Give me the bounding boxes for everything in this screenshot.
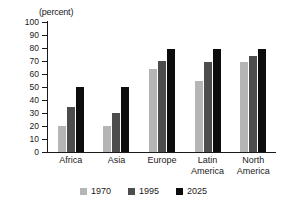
y-axis-tick-label-wrap: 20	[8, 126, 39, 127]
plot-area	[48, 22, 276, 152]
bar	[149, 69, 157, 152]
y-axis-tick-label: 70	[8, 57, 39, 66]
y-axis-unit-label: (percent)	[39, 7, 73, 17]
y-axis-tick-label-wrap: 10	[8, 139, 39, 140]
legend-swatch-icon	[128, 188, 135, 195]
y-axis-tick-label-wrap: 70	[8, 61, 39, 62]
y-axis-tick-label: 40	[8, 96, 39, 105]
bar	[58, 126, 66, 152]
y-axis-tick-label-wrap: 0	[8, 152, 39, 153]
legend-item: 2025	[176, 187, 207, 196]
y-axis-tick-label-wrap: 50	[8, 87, 39, 88]
y-axis-tick	[42, 113, 47, 114]
y-axis-tick	[42, 74, 47, 75]
bar-group	[240, 22, 266, 152]
y-axis-tick-label: 20	[8, 122, 39, 131]
y-axis-tick	[42, 126, 47, 127]
bar	[195, 81, 203, 153]
legend-swatch-icon	[80, 188, 87, 195]
bar	[258, 49, 266, 152]
y-axis-tick	[42, 35, 47, 36]
bar	[67, 107, 75, 153]
chart-legend: 197019952025	[0, 187, 287, 196]
bar-chart: (percent) 1009080706050403020100 AfricaA…	[0, 0, 287, 209]
y-axis-tick-label-wrap: 40	[8, 100, 39, 101]
y-axis-tick	[42, 48, 47, 49]
bar-group	[58, 22, 84, 152]
y-axis-tick-label: 100	[8, 18, 39, 27]
y-axis-tick	[42, 100, 47, 101]
y-axis-tick-label-wrap: 30	[8, 113, 39, 114]
bar	[121, 87, 129, 152]
bar	[249, 56, 257, 152]
legend-swatch-icon	[176, 188, 183, 195]
legend-label: 1995	[139, 187, 159, 196]
y-axis-tick-label-wrap: 100	[8, 22, 39, 23]
bar	[204, 62, 212, 152]
bar	[213, 49, 221, 152]
y-axis-tick-label: 60	[8, 70, 39, 79]
y-axis-tick-label-wrap: 90	[8, 35, 39, 36]
bar-group	[195, 22, 221, 152]
y-axis-tick	[42, 152, 47, 153]
category-label-line1: North	[223, 155, 283, 166]
x-axis-category-label: NorthAmerica	[223, 155, 283, 176]
category-label-line2: America	[223, 166, 283, 177]
legend-label: 2025	[187, 187, 207, 196]
y-axis-tick	[42, 61, 47, 62]
bar-group	[103, 22, 129, 152]
legend-item: 1970	[80, 187, 111, 196]
y-axis-tick	[42, 139, 47, 140]
legend-item: 1995	[128, 187, 159, 196]
y-axis-tick-label: 50	[8, 83, 39, 92]
bar	[112, 113, 120, 152]
y-axis-tick-label: 90	[8, 31, 39, 40]
bar	[103, 126, 111, 152]
bar	[167, 49, 175, 152]
y-axis-tick-label: 30	[8, 109, 39, 118]
y-axis-tick-label: 0	[8, 148, 39, 157]
y-axis-tick	[42, 22, 47, 23]
y-axis-tick-label: 80	[8, 44, 39, 53]
bar	[76, 87, 84, 152]
bar-group	[149, 22, 175, 152]
legend-label: 1970	[91, 187, 111, 196]
y-axis-tick	[42, 87, 47, 88]
bar	[158, 61, 166, 152]
bar	[240, 62, 248, 152]
y-axis-tick-label-wrap: 60	[8, 74, 39, 75]
x-axis-line	[47, 152, 276, 153]
y-axis-tick-label: 10	[8, 135, 39, 144]
y-axis-tick-label-wrap: 80	[8, 48, 39, 49]
